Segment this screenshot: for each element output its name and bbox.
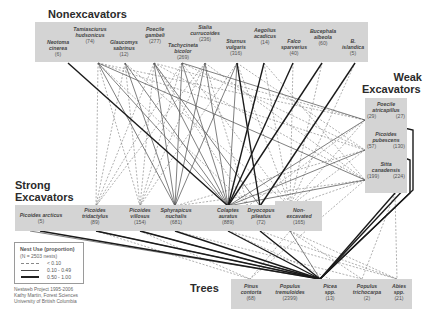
- count-as-nonexcavator: (29): [367, 113, 376, 119]
- group-title-strong-excavators: Strong Excavators: [15, 179, 74, 203]
- node-populus-tremuloides: Populus tremuloides (2399): [268, 283, 312, 301]
- group-title-nonexcavators: Nonexcavators: [48, 8, 127, 20]
- legend-item-mid: 0.10 - 0.49: [21, 267, 81, 274]
- node-picoides-tridactylus: Picoides tridactylus (89): [74, 207, 116, 225]
- legend-item-high: 0.50 - 1.00: [21, 274, 81, 281]
- count-as-nonexcavator: (199): [367, 173, 379, 179]
- legend-title: Nest Use (proportion): [20, 246, 74, 252]
- edges-dashed: [96, 63, 397, 279]
- thin-line-icon: [21, 270, 39, 271]
- node-sphyrapicus-nuchalis: Sphyrapicus nuchalis (681): [154, 207, 198, 225]
- node-non-excavated: Non- excavated (165): [278, 207, 320, 225]
- edges-thick: [40, 63, 413, 279]
- count-as-nonexcavator: (57): [367, 143, 376, 149]
- node-bucephala-albeola: Bucephala albeola (60): [306, 28, 340, 46]
- count-as-excavator: (130): [393, 143, 405, 149]
- thick-line-icon: [21, 276, 39, 278]
- node-populus-trichocarpa: Populus trichocarpa (2): [346, 283, 388, 301]
- group-title-trees: Trees: [190, 282, 219, 294]
- node-tachycineta-bicolor: Tachycineta bicolor (269): [162, 42, 204, 60]
- node-dryocopus-pileatus: Dryocopus pileatus (72): [242, 207, 280, 225]
- credit: Nestweb Project 1995-2006 Kathy Martin, …: [14, 287, 78, 305]
- node-abies-spp: Abies spp. (21): [386, 283, 412, 301]
- node-poecile-atricapillus: Poecile atricapillus (29) (27): [365, 101, 407, 119]
- legend-subtitle: (N = 2503 nests): [20, 253, 57, 259]
- count-as-excavator: (224): [393, 173, 405, 179]
- node-b-islandica: B. islandica (5): [338, 38, 368, 56]
- group-title-weak-excavators-line2: Excavators: [362, 83, 421, 95]
- node-pinus-contorta: Pinus contorta (68): [234, 283, 268, 301]
- count-as-excavator: (27): [396, 113, 405, 119]
- legend: Nest Use (proportion) (N = 2503 nests) <…: [14, 242, 84, 284]
- node-picoides-pubescens: Picoides pubescens (57) (130): [365, 131, 407, 149]
- group-title-weak-excavators: Weak: [384, 71, 422, 83]
- node-sitta-canadensis: Sitta canadensis (199) (224): [365, 161, 407, 179]
- node-picoides-arcticus: Picoides arcticus (5): [17, 212, 65, 224]
- legend-item-low: < 0.10: [21, 260, 81, 267]
- dashed-line-icon: [21, 263, 39, 264]
- node-picea-spp: Picea spp. (13): [316, 283, 344, 301]
